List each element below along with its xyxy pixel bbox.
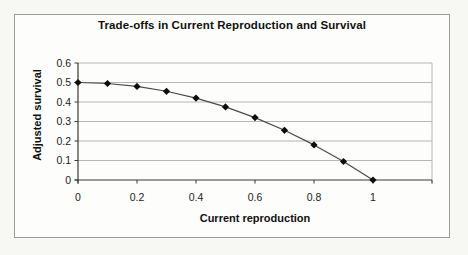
y-tick-label: 0.6: [56, 57, 71, 69]
x-tick-labels: 00.20.40.60.81: [75, 180, 432, 203]
x-tick-label: 0.6: [248, 191, 263, 203]
data-point: [222, 103, 229, 110]
y-tick-label: 0.2: [56, 135, 71, 147]
data-point: [74, 79, 81, 86]
x-tick-label: 0.8: [307, 191, 322, 203]
data-point-markers: [74, 79, 376, 184]
x-tick-label: 1: [370, 191, 376, 203]
y-tick-label: 0: [65, 174, 71, 186]
data-point: [104, 80, 111, 87]
data-point: [369, 176, 376, 183]
data-point: [192, 95, 199, 102]
y-gridlines: [78, 63, 432, 161]
data-point: [133, 83, 140, 90]
chart-canvas: 00.10.20.30.40.50.600.20.40.60.81 Trade-…: [0, 0, 468, 255]
chart-title: Trade-offs in Current Reproduction and S…: [14, 19, 450, 31]
data-point: [281, 127, 288, 134]
x-tick-label: 0.4: [189, 191, 204, 203]
y-tick-label: 0.4: [56, 96, 71, 108]
y-axis-title-text: Adjusted survival: [31, 69, 43, 161]
data-point: [163, 88, 170, 95]
data-point: [310, 141, 317, 148]
x-axis-title: Current reproduction: [78, 212, 432, 224]
axes: [75, 63, 433, 184]
data-point: [251, 114, 258, 121]
data-point: [340, 158, 347, 165]
y-tick-label: 0.1: [56, 154, 71, 166]
y-tick-label: 0.5: [56, 76, 71, 88]
y-tick-label: 0.3: [56, 115, 71, 127]
series-line: [78, 83, 373, 181]
x-tick-label: 0.2: [130, 191, 145, 203]
y-tick-labels: 00.10.20.30.40.50.6: [56, 57, 78, 186]
x-tick-label: 0: [75, 191, 81, 203]
